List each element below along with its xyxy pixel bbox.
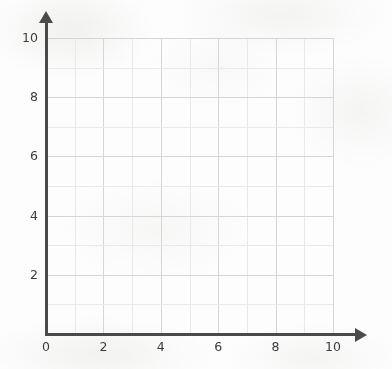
x-axis-tick-labels: 0246810 — [0, 341, 392, 361]
y-axis-line — [45, 20, 48, 336]
gridline-horizontal — [46, 216, 333, 217]
y-axis-arrowhead-icon — [39, 11, 53, 23]
x-axis-line — [45, 333, 358, 336]
y-axis-tick-labels: 246810 — [0, 0, 38, 369]
gridline-horizontal — [46, 38, 333, 39]
gridline-horizontal — [46, 97, 333, 98]
x-tick-label: 10 — [325, 341, 341, 354]
y-tick-label: 2 — [30, 269, 38, 282]
gridline-horizontal — [46, 275, 333, 276]
x-tick-label: 8 — [272, 341, 280, 354]
gridline-vertical — [333, 38, 334, 334]
gridline-horizontal — [46, 245, 333, 246]
y-tick-label: 6 — [30, 150, 38, 163]
gridline-horizontal — [46, 304, 333, 305]
coordinate-graph: 246810 0246810 — [0, 0, 392, 369]
x-tick-label: 0 — [42, 341, 50, 354]
x-tick-label: 2 — [99, 341, 107, 354]
horizontal-gridlines — [46, 38, 333, 334]
x-tick-label: 4 — [157, 341, 165, 354]
gridline-horizontal — [46, 156, 333, 157]
x-axis-arrowhead-icon — [355, 328, 367, 342]
y-tick-label: 8 — [30, 91, 38, 104]
gridline-horizontal — [46, 127, 333, 128]
x-tick-label: 6 — [214, 341, 222, 354]
y-tick-label: 4 — [30, 209, 38, 222]
y-tick-label: 10 — [22, 32, 38, 45]
gridline-horizontal — [46, 68, 333, 69]
plot-area — [46, 38, 333, 334]
gridline-horizontal — [46, 186, 333, 187]
